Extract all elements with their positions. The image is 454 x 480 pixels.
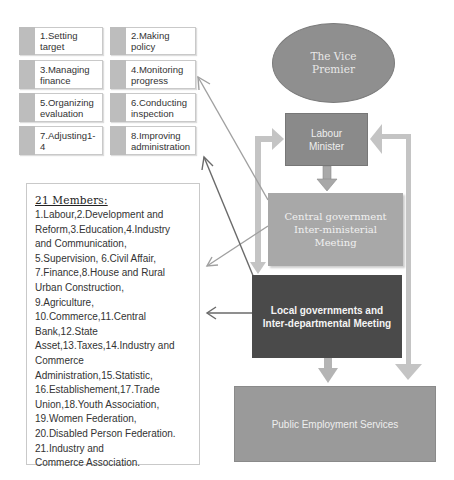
local-meeting-label: Local governments and Inter-departmental… [263,304,391,330]
local-to-members-arrow [207,307,252,319]
local-meeting-node: Local governments and Inter-departmental… [252,275,402,358]
labour-minister-node: Labour Minister [285,113,368,166]
central-meeting-label: Central government Inter-ministerial Mee… [284,210,386,249]
vice-premier-label: The Vice Premier [310,50,356,76]
labour-minister-label: Labour Minister [309,127,344,153]
public-employment-label: Public Employment Services [272,419,399,430]
central-meeting-node: Central government Inter-ministerial Mee… [268,193,403,266]
minister-to-central-arrow [317,166,337,191]
vice-premier-node: The Vice Premier [272,23,395,103]
public-employment-node: Public Employment Services [234,386,436,462]
